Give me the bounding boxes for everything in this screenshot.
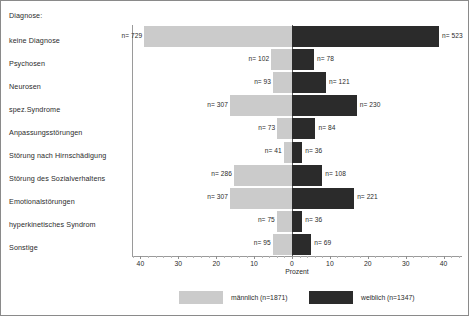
legend-swatch	[179, 291, 223, 304]
bar-male	[277, 118, 292, 139]
bar-value-label-male: n= 95	[254, 239, 271, 246]
x-minor-tick	[201, 256, 202, 258]
x-tick	[292, 256, 293, 259]
x-minor-tick	[247, 256, 248, 258]
x-minor-tick	[428, 256, 429, 258]
x-minor-tick	[156, 256, 157, 258]
bar-female	[292, 211, 302, 232]
x-tick-label: 40	[137, 260, 145, 267]
x-minor-tick	[398, 256, 399, 258]
legend-label: weiblich (n=1347)	[361, 294, 414, 301]
bar-row: n= 286n= 108	[132, 165, 462, 186]
x-minor-tick	[315, 256, 316, 258]
bar-value-label-female: n= 523	[442, 32, 463, 39]
category-axis: Diagnose: keine DiagnosePsychosenNeurose…	[9, 11, 134, 266]
x-tick-label: 0	[290, 260, 294, 267]
x-minor-tick	[459, 256, 460, 258]
bar-value-label-male: n= 286	[211, 170, 232, 177]
x-minor-tick	[345, 256, 346, 258]
bar-row: n= 102n= 78	[132, 49, 462, 70]
category-label: Emotionalstörungen	[9, 197, 75, 206]
x-minor-tick	[277, 256, 278, 258]
bar-male	[273, 72, 292, 93]
x-tick-label: 30	[402, 260, 410, 267]
x-minor-tick	[133, 256, 134, 258]
x-minor-tick	[193, 256, 194, 258]
x-minor-tick	[171, 256, 172, 258]
x-tick	[178, 256, 179, 259]
x-minor-tick	[284, 256, 285, 258]
x-minor-tick	[148, 256, 149, 258]
bar-female	[292, 95, 357, 116]
bar-male	[230, 188, 292, 209]
x-minor-tick	[391, 256, 392, 258]
bar-male	[234, 165, 292, 186]
bar-value-label-female: n= 36	[305, 147, 322, 154]
legend-swatch	[309, 291, 353, 304]
category-label: Sonstige	[9, 243, 38, 252]
x-minor-tick	[421, 256, 422, 258]
bar-value-label-female: n= 108	[325, 170, 346, 177]
category-axis-title: Diagnose:	[9, 11, 42, 20]
bar-male	[271, 49, 292, 70]
x-minor-tick	[436, 256, 437, 258]
x-tick-label: 10	[250, 260, 258, 267]
x-tick	[140, 256, 141, 259]
category-label: Anpassungsstörungen	[9, 128, 82, 137]
bar-row: n= 93n= 121	[132, 72, 462, 93]
x-minor-tick	[360, 256, 361, 258]
bar-value-label-female: n= 230	[360, 101, 381, 108]
x-tick	[216, 256, 217, 259]
bar-value-label-male: n= 729	[122, 32, 143, 39]
x-minor-tick	[353, 256, 354, 258]
bar-value-label-male: n= 75	[258, 216, 275, 223]
bar-female	[292, 49, 314, 70]
bar-value-label-male: n= 307	[207, 193, 228, 200]
bar-value-label-female: n= 78	[317, 55, 334, 62]
category-label: Störung des Sozialverhaltens	[9, 174, 105, 183]
chart-frame: Diagnose: keine DiagnosePsychosenNeurose…	[0, 0, 469, 316]
bar-female	[292, 72, 326, 93]
x-minor-tick	[163, 256, 164, 258]
x-tick-label: 30	[175, 260, 183, 267]
bar-row: n= 307n= 230	[132, 95, 462, 116]
x-tick	[444, 256, 445, 259]
bar-value-label-female: n= 84	[318, 124, 335, 131]
category-label: hyperkinetisches Syndrom	[9, 220, 96, 229]
bar-value-label-male: n= 102	[249, 55, 270, 62]
x-tick	[368, 256, 369, 259]
bar-female	[292, 118, 315, 139]
x-minor-tick	[451, 256, 452, 258]
category-label: keine Diagnose	[9, 36, 60, 45]
bar-value-label-female: n= 36	[305, 216, 322, 223]
x-tick-label: 40	[440, 260, 448, 267]
x-tick	[406, 256, 407, 259]
x-tick	[254, 256, 255, 259]
x-minor-tick	[300, 256, 301, 258]
bar-row: n= 729n= 523	[132, 26, 462, 47]
x-minor-tick	[383, 256, 384, 258]
bar-row: n= 41n= 36	[132, 142, 462, 163]
bar-male	[230, 95, 292, 116]
x-tick-label: 20	[364, 260, 372, 267]
bar-row: n= 73n= 84	[132, 118, 462, 139]
category-label: Störung nach Hirnschädigung	[9, 151, 106, 160]
legend-label: männlich (n=1871)	[231, 294, 288, 301]
x-minor-tick	[337, 256, 338, 258]
x-minor-tick	[239, 256, 240, 258]
x-minor-tick	[231, 256, 232, 258]
category-label: spez.Syndrome	[9, 105, 60, 114]
x-minor-tick	[375, 256, 376, 258]
bar-row: n= 75n= 36	[132, 211, 462, 232]
bar-value-label-male: n= 307	[207, 101, 228, 108]
x-minor-tick	[322, 256, 323, 258]
bar-row: n= 95n= 69	[132, 234, 462, 255]
x-tick	[330, 256, 331, 259]
category-label: Psychosen	[9, 59, 45, 68]
bar-male	[144, 26, 292, 47]
x-minor-tick	[209, 256, 210, 258]
x-minor-tick	[269, 256, 270, 258]
bar-value-label-female: n= 69	[314, 239, 331, 246]
bar-value-label-female: n= 121	[329, 78, 350, 85]
x-minor-tick	[224, 256, 225, 258]
